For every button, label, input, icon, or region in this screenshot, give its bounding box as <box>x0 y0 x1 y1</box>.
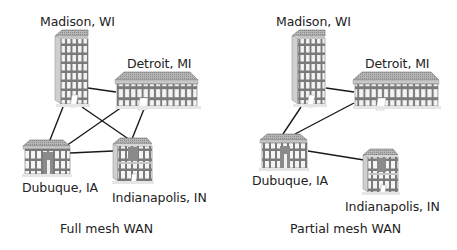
node-label-detroit: Detroit, MI <box>365 56 429 71</box>
building-icon-detroit <box>115 72 201 110</box>
building-icon-dubuque <box>22 140 72 177</box>
link-detroit-dubuque <box>66 107 122 146</box>
building-icon-madison <box>55 30 90 107</box>
diagram-caption: Partial mesh WAN <box>290 221 401 236</box>
full-mesh-diagram: Madison, WI Detroit, MI Dubuque, IA Indi… <box>0 0 228 250</box>
link-madison-detroit <box>326 88 354 92</box>
link-madison-dubuque <box>283 107 301 134</box>
building-icon-indianapolis <box>362 149 400 195</box>
building-icon-detroit <box>353 72 441 110</box>
link-madison-detroit <box>88 88 116 92</box>
node-label-madison: Madison, WI <box>276 14 351 29</box>
node-label-dubuque: Dubuque, IA <box>252 173 328 188</box>
link-madison-dubuque <box>48 107 63 145</box>
link-detroit-indianapolis <box>132 109 144 139</box>
node-label-dubuque: Dubuque, IA <box>22 180 98 195</box>
building-icon-indianapolis <box>112 138 154 184</box>
building-icon-dubuque <box>259 134 309 171</box>
link-dubuque-indianapolis <box>70 151 113 153</box>
building-icon-madison <box>292 30 327 107</box>
partial-mesh-diagram: Madison, WI Detroit, MI Dubuque, IA Indi… <box>228 0 457 250</box>
node-label-indianapolis: Indianapolis, IN <box>112 190 207 205</box>
link-detroit-dubuque <box>295 103 354 134</box>
node-label-madison: Madison, WI <box>40 14 115 29</box>
node-label-detroit: Detroit, MI <box>127 56 191 71</box>
full-mesh-graphic <box>0 0 228 250</box>
diagram-caption: Full mesh WAN <box>60 221 153 236</box>
link-madison-indianapolis <box>82 107 130 140</box>
link-dubuque-indianapolis <box>308 151 364 160</box>
node-label-indianapolis: Indianapolis, IN <box>345 199 440 214</box>
